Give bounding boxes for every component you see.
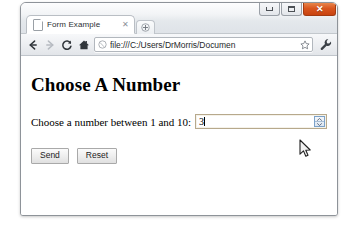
reset-button[interactable]: Reset <box>77 148 117 164</box>
close-window-button[interactable]: ✕ <box>303 3 336 16</box>
browser-window: Form Example ✕ ✕ <box>20 2 338 216</box>
tab-form-example[interactable]: Form Example ✕ <box>26 15 135 34</box>
page-content: Choose A Number Choose a number between … <box>21 56 337 215</box>
globe-icon <box>98 40 107 49</box>
chevron-down-icon <box>317 123 322 126</box>
maximize-icon <box>288 6 295 12</box>
address-bar[interactable]: file:///C:/Users/DrMorris/Documen <box>94 37 313 52</box>
number-field-label: Choose a number between 1 and 10: <box>31 116 191 128</box>
navigation-toolbar: file:///C:/Users/DrMorris/Documen <box>21 34 337 56</box>
wrench-icon <box>319 38 332 51</box>
window-controls: ✕ <box>258 3 336 16</box>
number-input[interactable]: 3 <box>195 114 327 129</box>
send-button[interactable]: Send <box>31 148 69 164</box>
maximize-button[interactable] <box>281 3 302 16</box>
chevron-up-icon <box>317 118 322 121</box>
number-input-value: 3 <box>196 117 204 127</box>
plus-icon <box>141 23 150 32</box>
forward-arrow-icon <box>44 39 56 51</box>
minimize-button[interactable] <box>259 3 280 16</box>
number-form-row: Choose a number between 1 and 10: 3 <box>31 114 327 129</box>
page-title: Choose A Number <box>31 56 327 94</box>
url-text: file:///C:/Users/DrMorris/Documen <box>110 40 298 50</box>
chrome-menu-button[interactable] <box>317 36 334 53</box>
reload-button[interactable] <box>58 36 75 53</box>
page-icon <box>33 19 43 31</box>
forward-button[interactable] <box>41 36 58 53</box>
title-bar: Form Example ✕ ✕ <box>21 3 337 34</box>
close-icon[interactable]: ✕ <box>122 21 129 29</box>
new-tab-button[interactable] <box>136 20 155 34</box>
text-caret <box>204 117 205 126</box>
back-arrow-icon <box>27 39 39 51</box>
number-spinner[interactable] <box>314 116 325 127</box>
minimize-icon <box>266 7 273 11</box>
tab-strip: Form Example ✕ <box>26 15 155 34</box>
home-icon <box>78 39 90 51</box>
star-icon[interactable] <box>300 40 310 50</box>
screenshot-canvas: Form Example ✕ ✕ <box>0 0 346 230</box>
reload-icon <box>61 39 73 51</box>
spinner-down-button[interactable] <box>315 122 324 126</box>
tab-title: Form Example <box>47 20 100 29</box>
back-button[interactable] <box>24 36 41 53</box>
form-buttons: Send Reset <box>31 148 327 164</box>
home-button[interactable] <box>75 36 92 53</box>
